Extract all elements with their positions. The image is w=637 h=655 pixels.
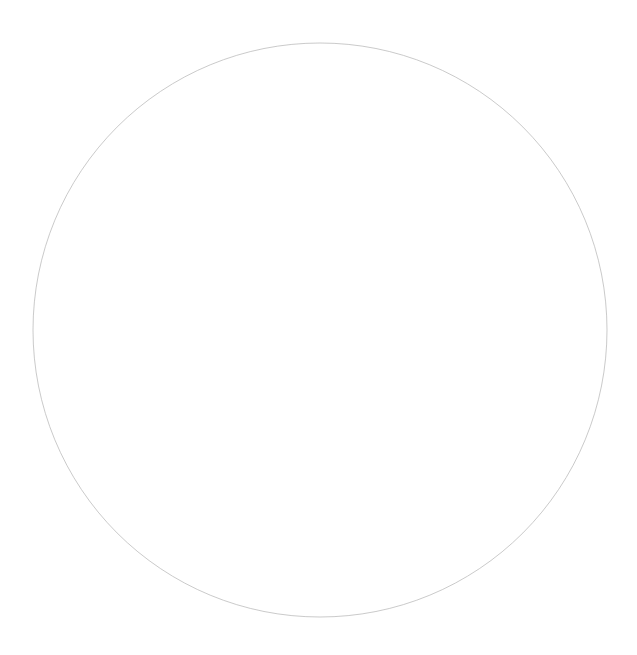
circle-drawing — [0, 0, 637, 655]
blank-canvas — [0, 0, 637, 655]
circle-outline — [33, 43, 607, 617]
